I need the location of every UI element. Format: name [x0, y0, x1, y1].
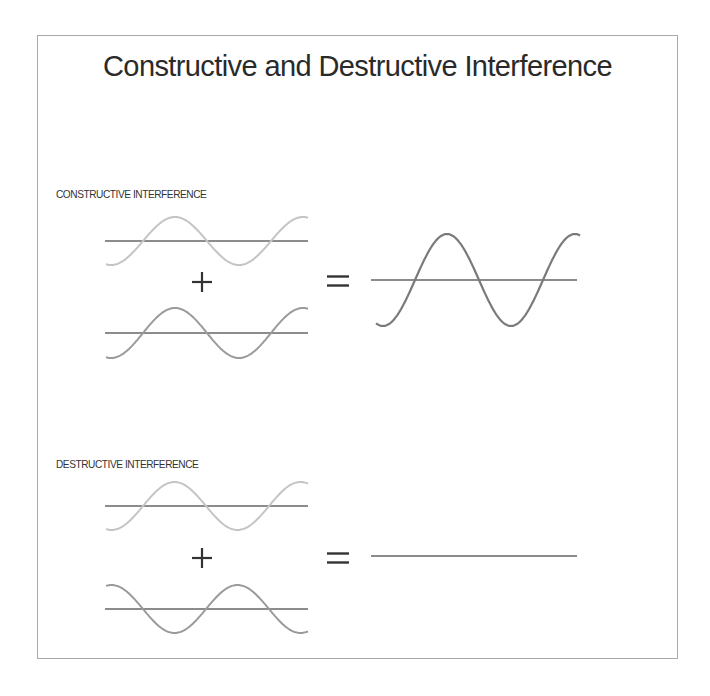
plus-icon [192, 272, 212, 292]
equals-icon [327, 554, 349, 563]
equals-icon [327, 277, 349, 286]
interference-diagram [0, 0, 710, 696]
destructive-section [105, 482, 577, 633]
plus-icon [192, 548, 212, 568]
constructive-section [105, 217, 580, 358]
